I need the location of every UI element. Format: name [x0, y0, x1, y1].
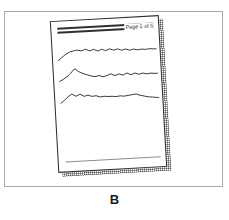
- trace-3-path: [60, 89, 159, 104]
- page-footer-rule: [66, 156, 161, 163]
- panel-caption: B: [0, 192, 229, 207]
- page-number-label: Page 5 of 5: [124, 22, 153, 31]
- figure-panel: Page 5 of 5 B: [0, 0, 229, 220]
- document-sheet[interactable]: Page 5 of 5: [50, 15, 167, 173]
- sheet-page: Page 5 of 5: [50, 15, 167, 173]
- document-stage: Page 5 of 5: [0, 0, 229, 220]
- page-header: Page 5 of 5: [57, 22, 154, 39]
- signal-trace-3: [60, 83, 160, 110]
- signal-trace-area: [57, 38, 160, 113]
- trace-2-path: [59, 64, 159, 82]
- trace-1-path: [58, 45, 157, 61]
